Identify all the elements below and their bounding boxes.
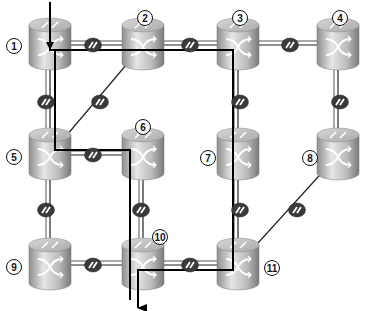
serial-link-icon xyxy=(85,148,102,162)
router-top xyxy=(317,128,359,142)
router-7[interactable] xyxy=(217,128,259,180)
router-4[interactable] xyxy=(317,18,359,70)
svg-text:9: 9 xyxy=(11,262,17,273)
router-top xyxy=(217,238,259,252)
serial-link-icon xyxy=(282,38,299,52)
router-label-7: 7 xyxy=(201,151,216,166)
router-6[interactable] xyxy=(122,128,164,180)
serial-link-icon xyxy=(38,95,55,109)
serial-link-icon xyxy=(332,95,349,109)
network-diagram: 1234567891011 xyxy=(0,0,367,311)
serial-link-icon xyxy=(133,203,150,217)
router-label-2: 2 xyxy=(138,11,153,26)
router-top xyxy=(217,128,259,142)
router-label-9: 9 xyxy=(7,260,22,275)
router-top xyxy=(29,238,71,252)
serial-link-icon xyxy=(85,38,102,52)
svg-text:2: 2 xyxy=(142,13,148,24)
router-top xyxy=(29,128,71,142)
svg-text:3: 3 xyxy=(237,13,243,24)
router-label-3: 3 xyxy=(233,11,248,26)
svg-text:11: 11 xyxy=(267,263,278,274)
svg-text:7: 7 xyxy=(205,153,211,164)
svg-text:8: 8 xyxy=(307,153,313,164)
router-label-10: 10 xyxy=(153,230,168,245)
serial-link-icon xyxy=(232,203,249,217)
router-label-1: 1 xyxy=(7,39,22,54)
router-2[interactable] xyxy=(122,18,164,70)
svg-text:1: 1 xyxy=(11,41,17,52)
router-label-4: 4 xyxy=(333,11,348,26)
serial-link-icon xyxy=(85,258,102,272)
topology-canvas: 1234567891011 xyxy=(0,0,367,311)
serial-link-icon xyxy=(92,95,109,109)
router-10[interactable] xyxy=(122,238,164,290)
svg-text:6: 6 xyxy=(140,122,146,133)
router-3[interactable] xyxy=(217,18,259,70)
serial-link-icon xyxy=(232,95,249,109)
serial-link-icon xyxy=(182,258,199,272)
router-8[interactable] xyxy=(317,128,359,180)
router-9[interactable] xyxy=(29,238,71,290)
router-11[interactable] xyxy=(217,238,259,290)
svg-text:5: 5 xyxy=(11,152,17,163)
svg-text:4: 4 xyxy=(337,13,343,24)
router-label-8: 8 xyxy=(303,151,318,166)
router-label-11: 11 xyxy=(265,261,280,276)
router-label-6: 6 xyxy=(136,120,151,135)
serial-link-icon xyxy=(38,203,55,217)
serial-link-icon xyxy=(182,38,199,52)
svg-text:10: 10 xyxy=(154,232,166,243)
router-label-5: 5 xyxy=(7,150,22,165)
router-5[interactable] xyxy=(29,128,71,180)
serial-link-icon xyxy=(289,203,306,217)
